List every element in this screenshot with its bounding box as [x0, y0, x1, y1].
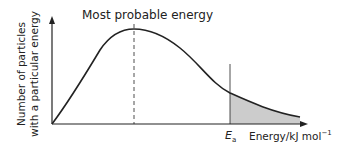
y-axis-label-line2: with a particular energy	[28, 0, 41, 146]
x-axis-label-text: Energy/kJ mol	[249, 130, 321, 142]
y-axis-arrow-icon	[49, 16, 55, 24]
most-probable-energy-label: Most probable energy	[82, 8, 213, 22]
x-axis-label-superscript: −1	[321, 129, 331, 137]
ea-subscript: a	[232, 136, 236, 144]
y-axis-label: Number of particles with a particular en…	[15, 0, 41, 146]
activation-energy-label: Ea	[225, 129, 236, 144]
x-axis-arrow-icon	[300, 121, 308, 127]
x-axis-label: Energy/kJ mol−1	[249, 129, 332, 142]
ea-symbol: E	[225, 129, 232, 142]
y-axis-label-line1: Number of particles	[15, 0, 28, 146]
